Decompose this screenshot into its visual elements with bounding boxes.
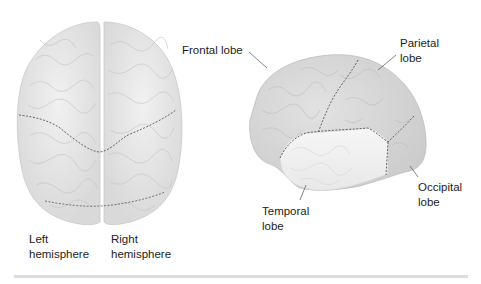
brain-top-view: [17, 22, 182, 225]
parietal-lobe-label: Parietal lobe: [400, 36, 439, 66]
parietal-lobe-label-line2: lobe: [400, 51, 439, 66]
left-hemisphere-label: Left hemisphere: [29, 232, 89, 262]
temporal-lobe-label: Temporal lobe: [262, 204, 309, 234]
frontal-lobe-label: Frontal lobe: [182, 43, 243, 58]
bottom-divider: [14, 275, 468, 278]
occipital-lobe-label: Occipital lobe: [418, 180, 462, 210]
left-hemisphere-label-line1: Left: [29, 232, 89, 247]
occipital-lobe-label-line1: Occipital: [418, 180, 462, 195]
left-hemisphere-shape: [17, 22, 100, 225]
parietal-lobe-label-line1: Parietal: [400, 36, 439, 51]
left-hemisphere-label-line2: hemisphere: [29, 247, 89, 262]
right-hemisphere-shape: [104, 22, 182, 225]
right-hemisphere-label-line2: hemisphere: [111, 247, 171, 262]
temporal-lobe-label-line2: lobe: [262, 219, 309, 234]
temporal-lobe-label-line1: Temporal: [262, 204, 309, 219]
brain-side-view: [250, 55, 426, 191]
occipital-lobe-label-line2: lobe: [418, 195, 462, 210]
right-hemisphere-label: Right hemisphere: [111, 232, 171, 262]
right-hemisphere-label-line1: Right: [111, 232, 171, 247]
